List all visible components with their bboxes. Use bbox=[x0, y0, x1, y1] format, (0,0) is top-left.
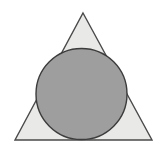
inscribed-circle bbox=[36, 49, 127, 140]
geometry-figure bbox=[0, 0, 164, 158]
figure-canvas bbox=[0, 0, 164, 158]
